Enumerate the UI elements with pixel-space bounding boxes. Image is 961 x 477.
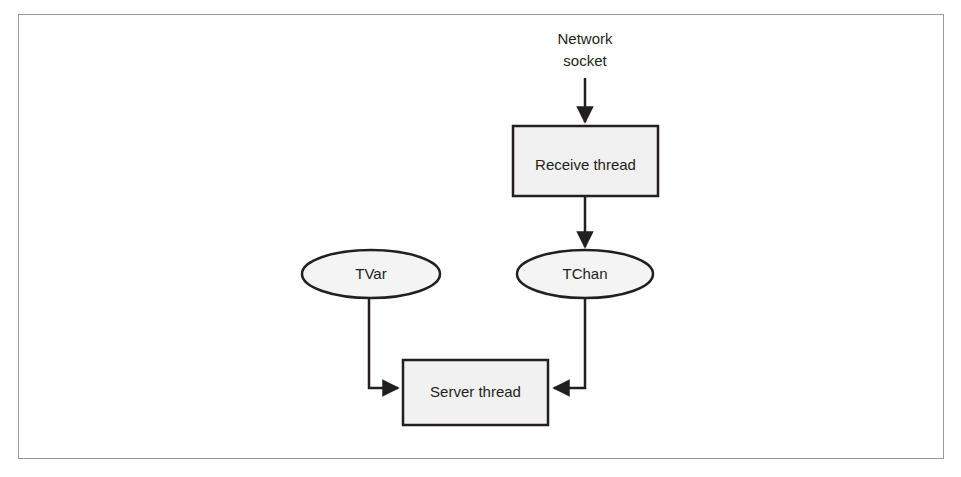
tchan-label: TChan [562,265,607,282]
node-server-thread[interactable]: Server thread [403,360,548,425]
tvar-label: TVar [355,265,386,282]
server-thread-label: Server thread [430,383,521,400]
network-socket-label-line1: Network [557,30,613,47]
connector-tvar-to-server-thread [369,298,398,388]
diagram-canvas: Receive thread TVar TChan Server thread [0,0,961,477]
elbow-arrow-line [554,298,585,388]
network-socket-label-line2: socket [563,52,607,69]
connector-tchan-to-server-thread [554,298,585,388]
label-network-socket: Network socket [557,30,613,69]
receive-thread-label: Receive thread [535,156,636,173]
node-tchan[interactable]: TChan [517,250,653,298]
node-tvar[interactable]: TVar [302,250,440,298]
figure-root: Receive thread TVar TChan Server thread [0,0,961,477]
node-receive-thread[interactable]: Receive thread [513,126,658,196]
elbow-arrow-line [369,298,398,388]
